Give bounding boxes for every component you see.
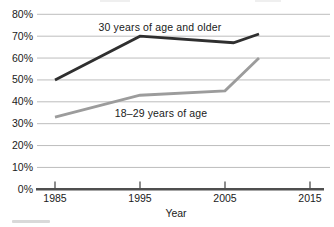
x-axis-title: Year <box>165 207 186 219</box>
x-tick-label: 1995 <box>128 192 152 204</box>
y-tick-label: 40% <box>12 95 33 107</box>
x-tick-label: 1985 <box>43 192 67 204</box>
y-tick-label: 10% <box>12 161 33 173</box>
x-tick-label: 2015 <box>298 192 322 204</box>
series-label-older: 30 years of age and older <box>99 21 222 33</box>
y-tick-label: 0% <box>18 183 33 195</box>
y-tick-label: 80% <box>12 8 33 20</box>
cropped-title-artifact <box>255 0 281 2</box>
cropped-title-artifact <box>100 0 130 2</box>
line-chart-figure: 0%10%20%30%40%50%60%70%80%19851995200520… <box>0 0 334 227</box>
series-line-older <box>55 34 259 80</box>
y-tick-label: 60% <box>12 52 33 64</box>
y-tick-label: 50% <box>12 73 33 85</box>
cropped-caption-artifact <box>12 220 50 223</box>
y-tick-label: 20% <box>12 139 33 151</box>
series-label-younger: 18–29 years of age <box>115 107 208 119</box>
y-tick-label: 30% <box>12 117 33 129</box>
y-tick-label: 70% <box>12 30 33 42</box>
x-tick-label: 2005 <box>213 192 237 204</box>
